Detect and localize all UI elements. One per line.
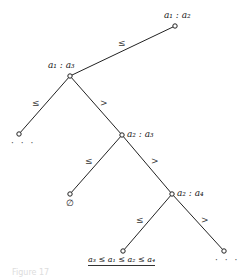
a2-a4-label: a₂ : a₄ [177,188,204,198]
root-label: a₁ : a₂ [164,10,191,20]
leaf-left-ellipsis: · · · [11,138,35,148]
a2-a3-label: a₂ : a₃ [127,129,154,139]
leaf-empty-label: ∅ [66,198,74,208]
node-leaf-left [17,132,21,136]
node-a2-a3 [120,133,124,137]
edge-label-a1a3-right: > [100,98,108,108]
edge-label-a2a3-left: ≤ [85,156,93,166]
edge-label-a1a3-left: ≤ [32,98,40,108]
edge-label-a2a3-right: > [151,156,159,166]
node-root [173,24,177,28]
node-leaf-empty [68,192,72,196]
node-a2-a4 [170,192,174,196]
node-a1-a3 [68,74,72,78]
leaf-result-label: a₃ ≤ a₁ ≤ a₂ ≤ a₄ [88,255,155,266]
edge-label-a2a4-right: > [201,215,209,225]
a1-a3-label: a₁ : a₃ [48,60,75,70]
figure-caption: Figure 17 [12,268,49,277]
node-leaf-right [222,249,226,253]
node-leaf-result [121,249,125,253]
leaf-right-ellipsis: · · · [215,255,239,265]
edge-label-root: ≤ [118,38,126,48]
edge-label-a2a4-left: ≤ [136,215,144,225]
